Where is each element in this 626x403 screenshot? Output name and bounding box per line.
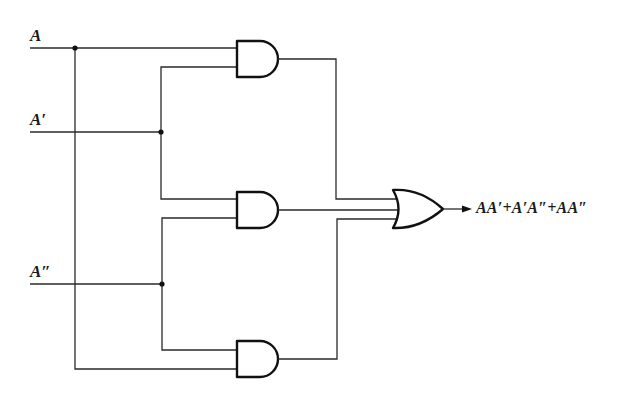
- wire-input-a-prime: [30, 67, 237, 199]
- output-expression: AA′+A′A″+AA″: [476, 200, 587, 216]
- and-gate-3: [237, 341, 278, 377]
- and-gate-2: [237, 192, 278, 228]
- output-arrow: [443, 206, 472, 213]
- wire-and3-to-or: [278, 219, 397, 359]
- arrow-head-icon: [462, 206, 472, 213]
- junction-dot-a-double-prime: [159, 281, 164, 286]
- junction-dot-a-prime: [158, 129, 163, 134]
- and-gate-1: [237, 41, 278, 77]
- or-gate: [393, 190, 443, 228]
- input-label-a-double-prime: A″: [30, 263, 51, 280]
- input-label-a-prime: A′: [30, 111, 46, 128]
- wire-input-a: [30, 48, 237, 369]
- wire-input-a-double-prime: [30, 218, 237, 350]
- wire-and1-to-or: [278, 59, 397, 199]
- input-label-a: A: [30, 27, 41, 44]
- junction-dot-a: [72, 45, 77, 50]
